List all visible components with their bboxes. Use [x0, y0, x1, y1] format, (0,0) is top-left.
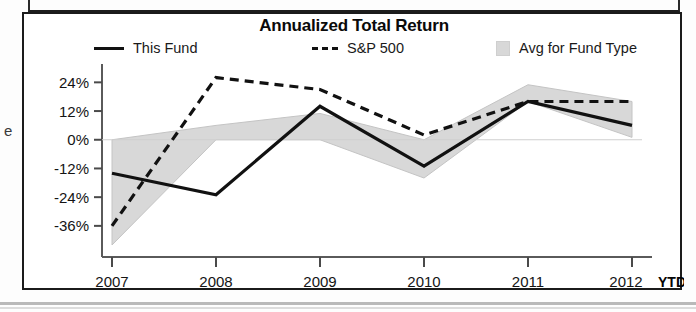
scan-bottom-edge-artifact-2	[0, 307, 696, 309]
scan-bottom-edge-artifact	[0, 302, 696, 305]
annualized-total-return-chart-panel: Annualized Total Return This Fund S&P 50…	[22, 12, 682, 290]
x-axis-tick-label: 2009	[303, 273, 336, 290]
plot-area: 24%12%0%-12%-24%-36%20072008200920102011…	[24, 14, 684, 292]
y-axis-tick-label: 12%	[59, 103, 89, 120]
y-axis-tick-label: -36%	[54, 217, 89, 234]
scan-top-frame-artifact	[28, 0, 680, 12]
x-axis-tick-label: 2007	[95, 273, 128, 290]
y-axis-tick-label: -24%	[54, 189, 89, 206]
y-axis-tick-label: 0%	[67, 131, 89, 148]
x-axis-ytd-label: YTD	[658, 274, 684, 290]
y-axis-tick-label: -12%	[54, 160, 89, 177]
chart-svg: 24%12%0%-12%-24%-36%20072008200920102011…	[24, 14, 684, 292]
scan-stray-glyph: e	[4, 122, 12, 139]
y-axis-tick-label: 24%	[59, 74, 89, 91]
x-axis-tick-label: 2011	[512, 273, 544, 290]
screenshot-root: e Annualized Total Return This Fund S&P …	[0, 0, 696, 312]
x-axis-tick-label: 2012	[609, 273, 642, 290]
x-axis-tick-label: 2010	[407, 273, 440, 290]
x-axis-tick-label: 2008	[199, 273, 232, 290]
